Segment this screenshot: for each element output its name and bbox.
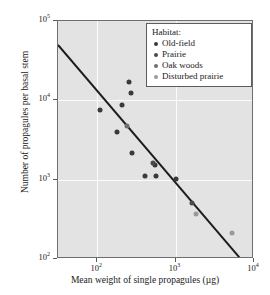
x-tick bbox=[96, 258, 97, 262]
y-tick bbox=[53, 20, 57, 21]
legend: Habitat: Old-fieldPrairieOak woodsDistur… bbox=[146, 23, 252, 87]
x-tick-label: 103 bbox=[160, 263, 190, 273]
legend-marker-icon bbox=[154, 53, 158, 57]
legend-marker-icon bbox=[154, 75, 158, 79]
y-tick bbox=[53, 99, 57, 100]
legend-title: Habitat: bbox=[152, 27, 246, 38]
legend-marker-icon bbox=[154, 64, 158, 68]
y-tick-label: 102 bbox=[22, 252, 50, 262]
legend-item-oak-woods: Oak woods bbox=[152, 60, 246, 71]
x-tick-label: 104 bbox=[238, 263, 268, 273]
x-axis-title: Mean weight of single propagules (µg) bbox=[30, 275, 260, 285]
data-point bbox=[130, 150, 135, 155]
y-axis-title: Number of propagules per basal stem bbox=[20, 7, 30, 237]
y-tick bbox=[53, 258, 57, 259]
data-point bbox=[115, 129, 120, 134]
x-tick bbox=[175, 258, 176, 262]
legend-item-label: Oak woods bbox=[162, 60, 203, 71]
data-point bbox=[193, 211, 198, 216]
data-point bbox=[229, 230, 234, 235]
data-point bbox=[154, 174, 159, 179]
legend-marker-icon bbox=[154, 42, 158, 46]
x-tick-label: 102 bbox=[81, 263, 111, 273]
legend-item-old-field: Old-field bbox=[152, 38, 246, 49]
data-point bbox=[189, 200, 194, 205]
x-tick bbox=[253, 258, 254, 262]
legend-item-label: Old-field bbox=[162, 38, 195, 49]
data-point bbox=[127, 80, 132, 85]
legend-item-disturbed-prairie: Disturbed prairie bbox=[152, 71, 246, 82]
data-point bbox=[151, 161, 156, 166]
data-point bbox=[173, 176, 178, 181]
data-point bbox=[124, 124, 129, 129]
data-point bbox=[129, 91, 134, 96]
figure-container: 102103104105102103104 Number of propagul… bbox=[0, 0, 270, 295]
data-point bbox=[98, 107, 103, 112]
legend-item-label: Prairie bbox=[162, 49, 186, 60]
y-tick bbox=[53, 179, 57, 180]
data-point bbox=[119, 102, 124, 107]
data-point bbox=[143, 174, 148, 179]
legend-item-prairie: Prairie bbox=[152, 49, 246, 60]
legend-item-label: Disturbed prairie bbox=[162, 71, 223, 82]
legend-entries: Old-fieldPrairieOak woodsDisturbed prair… bbox=[152, 38, 246, 82]
